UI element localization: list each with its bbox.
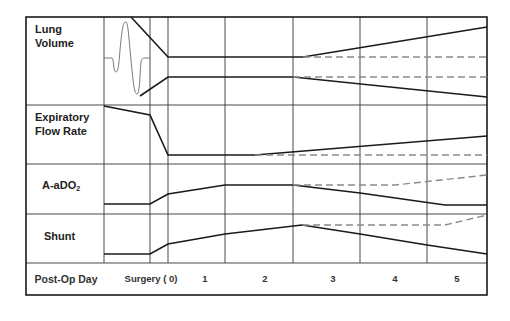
label-line: Flow Rate <box>35 124 89 138</box>
x-tick-4: 4 <box>370 273 420 284</box>
x-tick-3: 3 <box>308 273 358 284</box>
grid-lines <box>26 17 487 263</box>
x-tick-2: 2 <box>240 273 290 284</box>
outer-border <box>26 17 487 295</box>
row-label-expiratory-flow: Expiratory Flow Rate <box>35 110 89 138</box>
spirometry-waveform <box>104 22 150 94</box>
label-main: Shunt <box>44 230 75 242</box>
row-label-shunt: Shunt <box>44 229 75 243</box>
label-subscript: 2 <box>76 185 80 192</box>
x-tick-1: 1 <box>180 273 230 284</box>
row-label-lung-volume: Lung Volume <box>35 22 74 50</box>
x-axis-title: Post-Op Day <box>30 273 102 285</box>
label-line: Volume <box>35 36 74 50</box>
shunt-plot <box>104 215 487 254</box>
label-line: Expiratory <box>35 110 89 124</box>
a-ado2-plot <box>104 175 487 205</box>
expiratory-flow-plot <box>104 106 487 155</box>
row-label-a-ado2: A-aDO2 <box>42 178 80 196</box>
label-line: Lung <box>35 22 74 36</box>
x-tick-5: 5 <box>432 273 482 284</box>
label-main: A-aDO <box>42 179 76 191</box>
lung-volume-plot <box>104 17 487 97</box>
